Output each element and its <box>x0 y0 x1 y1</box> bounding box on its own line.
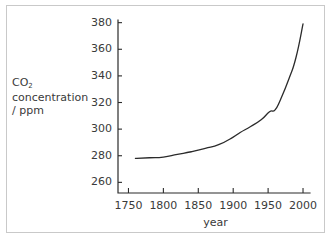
y-axis-title: CO2 concentration / ppm <box>12 76 96 117</box>
y-axis-title-line3: / ppm <box>12 104 44 117</box>
y-tick-label: 260 <box>72 176 112 187</box>
axis-ticks <box>118 23 303 193</box>
y-tick-label: 380 <box>72 17 112 28</box>
y-tick-label: 360 <box>72 43 112 54</box>
y-axis-title-molecule: CO <box>12 76 28 89</box>
data-series <box>135 24 303 158</box>
x-axis-title: year <box>118 216 313 229</box>
y-axis-title-line1: CO2 <box>12 76 33 89</box>
y-tick-label: 280 <box>72 150 112 161</box>
x-tick-label: 2000 <box>281 200 325 211</box>
axes-lines <box>118 20 310 193</box>
y-axis-title-subscript: 2 <box>28 82 32 90</box>
y-tick-label: 300 <box>72 123 112 134</box>
y-axis-title-line2: concentration <box>12 91 88 104</box>
chart-figure: 260280300320340360380 175018001850190019… <box>0 0 332 240</box>
